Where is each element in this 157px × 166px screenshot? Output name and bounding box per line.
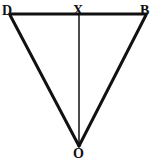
geometry-diagram: D X B O: [0, 0, 157, 166]
segment-bo: [79, 15, 146, 146]
vertex-label-d: D: [2, 4, 12, 18]
geometry-canvas: [0, 0, 157, 166]
vertex-label-x: X: [73, 4, 83, 18]
segment-do: [10, 15, 79, 146]
vertex-label-o: O: [73, 147, 84, 161]
vertex-label-b: B: [140, 4, 149, 18]
